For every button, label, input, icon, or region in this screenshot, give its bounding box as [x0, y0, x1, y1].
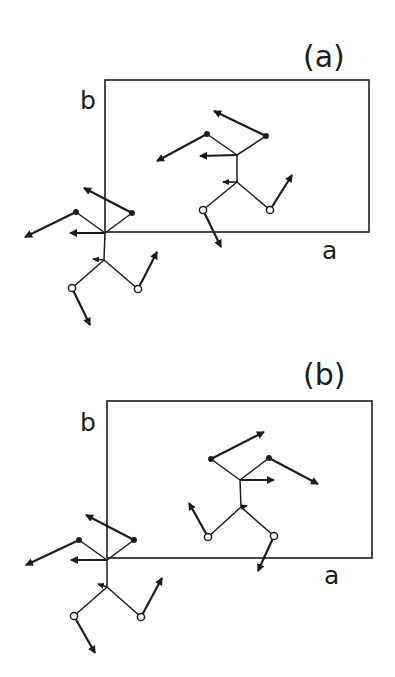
- spin-vector-arrow: [189, 503, 208, 537]
- spin-vector-arrow: [214, 111, 266, 136]
- spin-vector-arrow: [270, 175, 292, 210]
- bond-line: [76, 212, 105, 233]
- filled-atom-dot: [130, 211, 134, 215]
- open-atom-circle: [137, 613, 144, 620]
- filled-atom-dot: [77, 538, 81, 542]
- filled-atom-dot: [74, 210, 78, 214]
- panel-b-label: (b): [303, 360, 345, 390]
- bond-line: [208, 507, 241, 537]
- filled-atom-dot: [267, 456, 271, 460]
- panel-a-axis-b-label: b: [80, 88, 96, 113]
- panel-b-axis-a-label: a: [324, 563, 339, 588]
- spin-vector-arrow: [203, 210, 221, 247]
- panel-b-axis-b-label: b: [80, 410, 96, 435]
- bond-line: [74, 587, 107, 616]
- bond-line: [107, 540, 134, 560]
- bond-line: [79, 540, 107, 560]
- spin-structure-figure: (a) b a (b) b a: [0, 0, 395, 677]
- open-atom-circle: [70, 612, 77, 619]
- open-atom-circle: [68, 284, 75, 291]
- bond-line: [104, 233, 105, 260]
- filled-atom-dot: [264, 134, 268, 138]
- spin-vector-arrow: [93, 259, 104, 260]
- molecule-in-cell: [189, 432, 318, 571]
- spin-vector-arrow: [72, 288, 90, 325]
- panel-b: [26, 401, 372, 653]
- spin-vector-arrow: [258, 536, 274, 571]
- spin-vector-arrow: [98, 584, 107, 587]
- molecule-at-origin: [26, 515, 162, 653]
- spin-vector-arrow: [141, 578, 162, 617]
- panel-a-axis-a-label: a: [322, 238, 337, 263]
- open-atom-circle: [199, 206, 206, 213]
- spin-vector-arrow: [269, 458, 318, 484]
- spin-vector-arrow: [211, 432, 264, 459]
- bond-line: [207, 134, 237, 155]
- bond-line: [240, 480, 241, 507]
- bond-line: [211, 459, 240, 480]
- molecule-in-cell: [157, 111, 292, 247]
- open-atom-circle: [204, 533, 211, 540]
- bond-line: [107, 587, 141, 617]
- spin-vector-arrow: [138, 252, 157, 289]
- panel-a: [25, 80, 369, 325]
- molecule-at-origin: [25, 188, 157, 325]
- spin-vector-arrow: [26, 540, 79, 565]
- open-atom-circle: [266, 206, 273, 213]
- spin-vector-arrow: [25, 212, 76, 237]
- panel-a-label: (a): [303, 42, 345, 72]
- bond-line: [241, 507, 274, 536]
- filled-atom-dot: [205, 132, 209, 136]
- spin-vector-arrow: [74, 616, 95, 653]
- bond-line: [240, 458, 269, 480]
- bond-line: [237, 182, 270, 210]
- bond-line: [203, 182, 237, 210]
- open-atom-circle: [134, 285, 141, 292]
- spin-vector-arrow: [241, 506, 247, 507]
- spin-vector-arrow: [84, 188, 132, 213]
- spin-vector-arrow: [157, 134, 207, 161]
- spin-vector-arrow: [200, 155, 237, 156]
- filled-atom-dot: [132, 538, 136, 542]
- bond-line: [105, 213, 132, 233]
- bond-line: [237, 136, 266, 155]
- bond-line: [72, 260, 104, 288]
- filled-atom-dot: [209, 457, 213, 461]
- spin-vector-arrow: [86, 515, 134, 540]
- open-atom-circle: [270, 532, 277, 539]
- bond-line: [104, 260, 138, 289]
